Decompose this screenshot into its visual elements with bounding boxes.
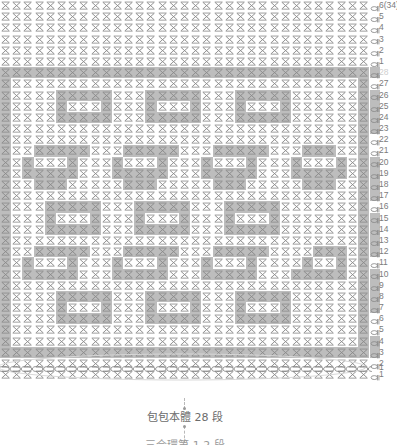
stitch-cell — [291, 22, 302, 33]
stitch-cell — [235, 11, 246, 22]
single-crochet-icon — [246, 302, 257, 313]
single-crochet-icon — [358, 22, 369, 33]
single-crochet-icon — [313, 201, 324, 212]
single-crochet-icon — [67, 67, 78, 78]
single-crochet-icon — [168, 22, 179, 33]
stitch-cell — [101, 201, 112, 212]
single-crochet-icon — [269, 0, 280, 11]
stitch-cell — [145, 67, 156, 78]
stitch-cell — [134, 336, 145, 347]
row-number-label: 6 — [378, 313, 397, 324]
single-crochet-icon — [67, 280, 78, 291]
stitch-cell — [313, 112, 324, 123]
single-crochet-icon — [280, 269, 291, 280]
single-crochet-icon — [157, 90, 168, 101]
row-number-label: 4 — [378, 336, 397, 347]
single-crochet-icon — [336, 257, 347, 268]
single-crochet-icon — [34, 90, 45, 101]
stitch-cell — [168, 179, 179, 190]
stitch-cell — [112, 45, 123, 56]
single-crochet-icon — [123, 22, 134, 33]
single-crochet-icon — [179, 324, 190, 335]
single-crochet-icon — [358, 257, 369, 268]
stitch-grid — [0, 0, 369, 380]
single-crochet-icon — [34, 22, 45, 33]
single-crochet-icon — [101, 157, 112, 168]
stitch-cell — [246, 0, 257, 11]
stitch-cell — [34, 213, 45, 224]
stitch-cell — [291, 179, 302, 190]
single-crochet-icon — [313, 123, 324, 134]
stitch-cell — [22, 235, 33, 246]
single-crochet-icon — [291, 190, 302, 201]
single-crochet-icon — [269, 56, 280, 67]
stitch-cell — [190, 179, 201, 190]
single-crochet-icon — [302, 213, 313, 224]
single-crochet-icon — [358, 145, 369, 156]
single-crochet-icon — [45, 190, 56, 201]
single-crochet-icon — [56, 34, 67, 45]
single-crochet-icon — [179, 0, 190, 11]
stitch-cell — [22, 302, 33, 313]
single-crochet-icon — [90, 224, 101, 235]
single-crochet-icon — [246, 246, 257, 257]
single-crochet-icon — [358, 224, 369, 235]
stitch-cell — [257, 213, 268, 224]
single-crochet-icon — [134, 145, 145, 156]
stitch-cell — [324, 313, 335, 324]
single-crochet-icon — [358, 90, 369, 101]
stitch-cell — [112, 78, 123, 89]
single-crochet-icon — [213, 22, 224, 33]
single-crochet-icon — [11, 22, 22, 33]
row-number-gutter: 6(34)54321282726252423222120191817161514… — [378, 0, 397, 380]
single-crochet-icon — [269, 11, 280, 22]
stitch-cell — [246, 101, 257, 112]
single-crochet-icon — [224, 179, 235, 190]
single-crochet-icon — [201, 67, 212, 78]
single-crochet-icon — [11, 45, 22, 56]
single-crochet-icon — [34, 112, 45, 123]
stitch-cell — [145, 190, 156, 201]
single-crochet-icon — [257, 168, 268, 179]
single-crochet-icon — [134, 257, 145, 268]
single-crochet-icon — [302, 257, 313, 268]
single-crochet-icon — [269, 134, 280, 145]
stitch-cell — [45, 213, 56, 224]
single-crochet-icon — [246, 280, 257, 291]
single-crochet-icon — [269, 78, 280, 89]
single-crochet-icon — [179, 213, 190, 224]
single-crochet-icon — [101, 34, 112, 45]
stitch-cell — [168, 78, 179, 89]
stitch-cell — [336, 280, 347, 291]
stitch-cell — [0, 11, 11, 22]
stitch-cell — [302, 34, 313, 45]
stitch-cell — [145, 280, 156, 291]
single-crochet-icon — [336, 90, 347, 101]
stitch-cell — [246, 246, 257, 257]
stitch-cell — [0, 201, 11, 212]
single-crochet-icon — [269, 179, 280, 190]
stitch-cell — [78, 22, 89, 33]
single-crochet-icon — [145, 157, 156, 168]
stitch-cell — [213, 235, 224, 246]
stitch-cell — [347, 78, 358, 89]
stitch-cell — [67, 324, 78, 335]
stitch-cell — [101, 224, 112, 235]
stitch-cell — [291, 235, 302, 246]
single-crochet-icon — [257, 11, 268, 22]
single-crochet-icon — [347, 112, 358, 123]
single-crochet-icon — [291, 302, 302, 313]
single-crochet-icon — [101, 280, 112, 291]
single-crochet-icon — [11, 280, 22, 291]
stitch-cell — [336, 45, 347, 56]
stitch-cell — [269, 324, 280, 335]
single-crochet-icon — [145, 291, 156, 302]
stitch-cell — [0, 324, 11, 335]
stitch-cell — [201, 257, 212, 268]
stitch-cell — [235, 123, 246, 134]
single-crochet-icon — [11, 123, 22, 134]
stitch-cell — [179, 179, 190, 190]
single-crochet-icon — [201, 213, 212, 224]
stitch-cell — [45, 90, 56, 101]
stitch-cell — [302, 11, 313, 22]
